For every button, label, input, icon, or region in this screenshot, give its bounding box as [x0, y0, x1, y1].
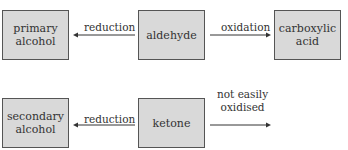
arrow-aldehyde-to-carboxylic-acid: [210, 33, 271, 38]
arrow-ketone-to-secondary-alcohol: [73, 123, 135, 128]
arrow-aldehyde-to-primary-alcohol: [73, 33, 135, 38]
arrows-layer: [0, 0, 348, 150]
arrow-ketone-not-oxidised: [210, 123, 271, 128]
